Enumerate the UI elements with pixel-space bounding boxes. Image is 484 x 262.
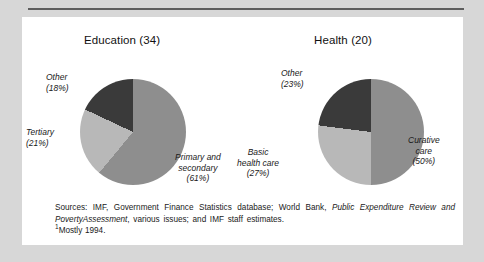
health-slice-label-basic-name: Basic bbox=[248, 147, 269, 157]
health-slice-label-curative-name: Curative bbox=[408, 135, 440, 145]
health-slice-label-basic-pct: (27%) bbox=[237, 168, 279, 179]
education-slice-label-primary: Primary and secondary (61%) bbox=[175, 152, 221, 184]
education-slice-label-primary-pct: (61%) bbox=[175, 173, 221, 184]
figure-card: Education (34) Other (18%) Tertiary (21%… bbox=[22, 17, 463, 245]
health-slice-label-other-pct: (23%) bbox=[281, 79, 304, 90]
figure-panel: Education (34) Other (18%) Tertiary (21%… bbox=[0, 0, 484, 262]
education-slice-label-other-pct: (18%) bbox=[46, 83, 69, 94]
health-slice-label-basic-name2: health care bbox=[237, 158, 279, 169]
health-slice-label-other-name: Other bbox=[281, 68, 302, 78]
health-slice-label-curative: Curative care (50%) bbox=[408, 135, 440, 167]
source-notes: Sources: IMF, Government Finance Statist… bbox=[55, 202, 455, 237]
education-slice-label-other-name: Other bbox=[46, 72, 67, 82]
health-slice-label-curative-name2: care bbox=[408, 146, 440, 157]
education-slice-label-primary-name: Primary and bbox=[175, 152, 221, 162]
source-note-italic-title-2: Assessment bbox=[83, 215, 128, 224]
education-slice-label-primary-name2: secondary bbox=[175, 163, 221, 174]
health-chart-title: Health (20) bbox=[314, 34, 372, 46]
health-slice-label-other: Other (23%) bbox=[281, 68, 304, 89]
source-note-line-1: Sources: IMF, Government Finance Statist… bbox=[55, 203, 455, 224]
source-note-text-a: Sources: IMF, Government Finance Statist… bbox=[55, 203, 332, 212]
health-pie-chart bbox=[318, 79, 424, 185]
education-pie-chart bbox=[80, 79, 186, 185]
education-slice-label-tertiary: Tertiary (21%) bbox=[26, 127, 54, 148]
education-slice-label-tertiary-pct: (21%) bbox=[26, 138, 54, 149]
education-slice-label-tertiary-name: Tertiary bbox=[26, 127, 54, 137]
top-divider-rule bbox=[28, 8, 464, 10]
health-slice-label-curative-pct: (50%) bbox=[408, 156, 440, 167]
health-slice-label-basic: Basic health care (27%) bbox=[237, 147, 279, 179]
education-slice-label-other: Other (18%) bbox=[46, 72, 69, 93]
footnote-text: Mostly 1994. bbox=[59, 226, 106, 235]
footnote: 1Mostly 1994. bbox=[55, 225, 455, 237]
education-chart-title: Education (34) bbox=[84, 34, 160, 46]
source-note-text-b: , various issues; and IMF staff estimate… bbox=[127, 215, 284, 224]
